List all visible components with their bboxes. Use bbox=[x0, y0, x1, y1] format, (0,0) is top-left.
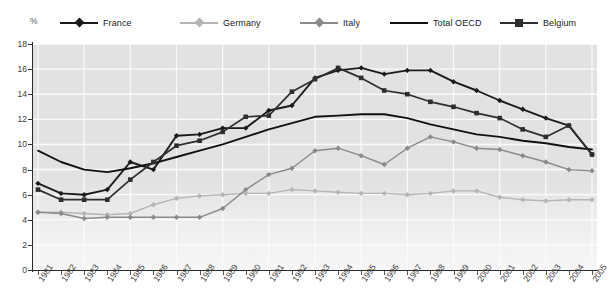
legend-item-total-oecd[interactable]: Total OECD bbox=[390, 14, 482, 32]
series-marker-germany bbox=[82, 211, 87, 216]
y-axis-tick-label: 4 bbox=[1, 215, 27, 225]
y-axis-tick-label: 2 bbox=[1, 240, 27, 250]
series-marker-germany bbox=[543, 198, 548, 203]
series-marker-belgium bbox=[359, 76, 364, 81]
y-axis-tick-label: 6 bbox=[1, 190, 27, 200]
legend-item-france[interactable]: France bbox=[60, 14, 132, 32]
legend-label: Italy bbox=[343, 18, 360, 28]
legend-swatch-france bbox=[60, 16, 98, 30]
series-marker-italy bbox=[35, 210, 40, 215]
series-marker-belgium bbox=[382, 88, 387, 93]
series-marker-france bbox=[497, 98, 502, 103]
series-marker-belgium bbox=[82, 197, 87, 202]
legend-line-icon bbox=[390, 22, 428, 24]
y-axis: 024681012141618 bbox=[0, 40, 33, 276]
series-marker-italy bbox=[359, 153, 364, 158]
series-marker-germany bbox=[474, 188, 479, 193]
series-marker-france bbox=[382, 71, 387, 76]
plot-area bbox=[33, 44, 597, 270]
legend-item-belgium[interactable]: Belgium bbox=[500, 14, 576, 32]
y-axis-tick-label: 16 bbox=[1, 64, 27, 74]
series-marker-belgium bbox=[174, 143, 179, 148]
y-axis-tick-label: 0 bbox=[1, 265, 27, 275]
legend-item-germany[interactable]: Germany bbox=[180, 14, 261, 32]
legend-diamond-marker-icon bbox=[315, 18, 325, 28]
series-marker-belgium bbox=[290, 89, 295, 94]
series-marker-belgium bbox=[197, 138, 202, 143]
series-marker-italy bbox=[566, 167, 571, 172]
y-axis-tick-label: 12 bbox=[1, 114, 27, 124]
series-marker-belgium bbox=[313, 77, 318, 82]
series-marker-germany bbox=[312, 188, 317, 193]
series-marker-germany bbox=[220, 192, 225, 197]
legend-diamond-marker-icon bbox=[75, 18, 85, 28]
series-marker-belgium bbox=[336, 66, 341, 71]
series-marker-belgium bbox=[474, 111, 479, 116]
series-marker-belgium bbox=[243, 115, 248, 120]
series-marker-belgium bbox=[405, 92, 410, 97]
series-marker-germany bbox=[405, 192, 410, 197]
series-marker-italy bbox=[543, 159, 548, 164]
series-marker-italy bbox=[520, 153, 525, 158]
series-marker-france bbox=[520, 107, 525, 112]
series-marker-belgium bbox=[151, 160, 156, 165]
series-marker-belgium bbox=[267, 113, 272, 118]
series-marker-germany bbox=[151, 202, 156, 207]
legend-diamond-marker-icon bbox=[195, 18, 205, 28]
series-marker-france bbox=[197, 132, 202, 137]
series-marker-italy bbox=[474, 146, 479, 151]
legend-label: France bbox=[103, 18, 132, 28]
legend-swatch-italy bbox=[300, 16, 338, 30]
series-marker-belgium bbox=[567, 123, 572, 128]
series-marker-belgium bbox=[105, 197, 110, 202]
series-marker-belgium bbox=[220, 130, 225, 135]
series-marker-belgium bbox=[428, 100, 433, 105]
series-marker-belgium bbox=[59, 197, 64, 202]
legend-swatch-total-oecd bbox=[390, 16, 428, 30]
series-marker-belgium bbox=[497, 116, 502, 121]
legend-label: Total OECD bbox=[433, 18, 482, 28]
y-axis-tick-label: 18 bbox=[1, 39, 27, 49]
series-marker-france bbox=[35, 181, 40, 186]
series-marker-italy bbox=[335, 146, 340, 151]
y-axis-tick-label: 10 bbox=[1, 139, 27, 149]
series-marker-germany bbox=[566, 197, 571, 202]
series-marker-germany bbox=[451, 188, 456, 193]
legend-label: Belgium bbox=[543, 18, 576, 28]
series-marker-france bbox=[474, 88, 479, 93]
series-marker-germany bbox=[589, 197, 594, 202]
series-marker-germany bbox=[289, 187, 294, 192]
series-marker-germany bbox=[520, 197, 525, 202]
series-marker-belgium bbox=[520, 127, 525, 132]
legend-swatch-belgium bbox=[500, 16, 538, 30]
series-canvas bbox=[33, 44, 597, 270]
series-marker-italy bbox=[428, 134, 433, 139]
y-axis-tick-label: 14 bbox=[1, 89, 27, 99]
series-marker-belgium bbox=[590, 152, 595, 157]
legend-label: Germany bbox=[223, 18, 261, 28]
series-marker-belgium bbox=[36, 187, 41, 192]
series-marker-france bbox=[82, 192, 87, 197]
legend-square-marker-icon bbox=[515, 19, 523, 27]
chart-container: % FranceGermanyItalyTotal OECDBelgium 02… bbox=[0, 0, 616, 302]
legend-item-italy[interactable]: Italy bbox=[300, 14, 360, 32]
series-marker-belgium bbox=[544, 135, 549, 140]
series-marker-belgium bbox=[128, 177, 133, 182]
y-axis-tick-label: 8 bbox=[1, 165, 27, 175]
series-marker-italy bbox=[497, 147, 502, 152]
chart-legend: FranceGermanyItalyTotal OECDBelgium bbox=[0, 14, 616, 32]
series-marker-germany bbox=[174, 196, 179, 201]
legend-swatch-germany bbox=[180, 16, 218, 30]
series-marker-belgium bbox=[451, 105, 456, 110]
